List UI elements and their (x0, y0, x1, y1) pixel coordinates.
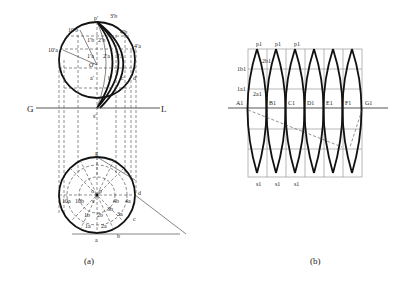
label-2a-prime: 2′a (103, 53, 110, 59)
label-2a1: 2a1 (253, 91, 262, 97)
label-b: b (117, 233, 120, 239)
label-1b1: 1b1 (237, 66, 246, 72)
label-s1: s1 (275, 181, 280, 187)
label-F1: F1 (345, 100, 351, 106)
label-A1: A1 (236, 100, 243, 106)
label-p: p (99, 188, 102, 194)
label-C1: C1 (288, 100, 295, 106)
label-1b: 1b (84, 212, 90, 218)
label-p1: p1 (256, 41, 262, 47)
label-L: L (161, 104, 167, 114)
label-d: d (138, 190, 141, 196)
label-d-prime: d′ (133, 75, 138, 81)
caption-a: (a) (84, 256, 94, 266)
label-c: c (133, 216, 136, 222)
label-1a-prime: 1′a (87, 53, 94, 59)
label-s-prime: s′ (93, 113, 97, 119)
gores (248, 49, 362, 173)
label-3a: 3a (117, 211, 123, 217)
label-2b-prime: 2′b (98, 37, 105, 43)
label-o-prime: O′ (89, 62, 95, 68)
label-1b-prime: 1′b (87, 37, 94, 43)
label-p1: p1 (275, 41, 281, 47)
label-p-prime: p′ (94, 15, 99, 21)
label-2b1: 2b1 (262, 58, 271, 64)
label-10b: 10b (75, 198, 84, 204)
label-10a-prime: 10′a (48, 47, 58, 53)
label-10a: 10a (62, 198, 71, 204)
label-a: a (95, 237, 98, 243)
label-4b-prime: 4′b (120, 29, 127, 35)
label-1a: 1a (85, 223, 91, 229)
label-o: o (91, 188, 94, 194)
label-s1: s1 (294, 181, 299, 187)
development-diagram: G L p′ 3′b 4′b 4′a 10′b 10′a 1′b 2′b 1′a… (0, 0, 407, 285)
label-3b: 3b (107, 206, 113, 212)
label-10b-prime: 10′b (68, 27, 78, 33)
label-p1: p1 (294, 41, 300, 47)
label-G: G (27, 104, 34, 114)
figure-b: p1 p1 p1 s1 s1 s1 1b1 2b1 1a1 2a1 A1 B1 … (228, 41, 388, 266)
label-G1: G1 (365, 100, 372, 106)
label-4a: 4a (125, 198, 131, 204)
label-1a1: 1a1 (237, 86, 246, 92)
label-3b-prime: 3′b (110, 13, 117, 19)
label-a-prime: a′ (90, 75, 95, 81)
figure-a: G L p′ 3′b 4′b 4′a 10′b 10′a 1′b 2′b 1′a… (27, 13, 186, 266)
label-E1: E1 (326, 100, 333, 106)
caption-b: (b) (310, 256, 321, 266)
label-B1: B1 (269, 100, 276, 106)
label-c-prime: c′ (121, 75, 126, 81)
label-2b: 2b (97, 212, 103, 218)
label-g: g (95, 150, 98, 156)
label-s1: s1 (256, 181, 261, 187)
label-4a-prime: 4′a (134, 43, 141, 49)
label-s: s (92, 198, 95, 204)
label-b-prime: b′ (108, 75, 113, 81)
label-2a: 2a (101, 223, 107, 229)
label-D1: D1 (307, 100, 314, 106)
label-3a-prime: 3′a (116, 53, 123, 59)
label-4b: 4b (113, 198, 119, 204)
lune-curve-outer (97, 22, 119, 108)
